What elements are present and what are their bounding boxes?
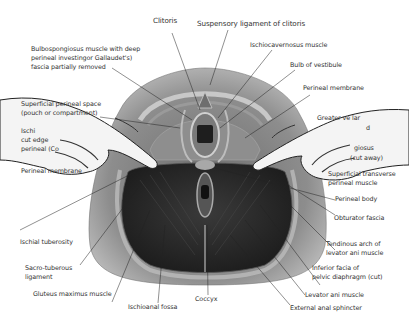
label-bulbospongiosus-line1: Bulbospongiosus muscle with deep (31, 45, 140, 53)
label-gluteus-maximus: Gluteus maximus muscle (33, 290, 112, 298)
label-perineal-membrane-left: Perineal membrane (21, 167, 82, 175)
label-ischio-cut-line1: Ischi (21, 127, 35, 135)
label-superficial-perineal-space-line1: Superficial perineal space (21, 100, 101, 108)
label-tendinous-arch-line1: Tendinous arch of (326, 240, 380, 248)
label-superficial-transverse-line1: Superficial transverse (328, 170, 396, 178)
label-inferior-fascia-line1: Inferior facia of (312, 264, 359, 272)
label-ischioanal-fossa: Ischioanal fossa (128, 303, 177, 311)
label-ischio-cut-line2: cut edge (21, 136, 48, 144)
label-superficial-transverse-line2: perineal muscle (328, 179, 377, 187)
label-sacro-tuberous-line2: ligament (25, 273, 52, 281)
label-bulbospongiosus-cut-line1: giosus (354, 144, 374, 152)
label-coccyx: Coccyx (195, 295, 217, 303)
label-perineal-membrane-right: Perineal membrane (303, 84, 364, 92)
label-ischial-tuberosity: Ischial tuberosity (20, 238, 73, 246)
label-levator-ani: Levator ani muscle (305, 291, 364, 299)
label-ischio-cut-line3: perineal (Co (21, 145, 59, 153)
label-tendinous-arch-line2: levator ani muscle (326, 249, 383, 257)
anatomy-diagram: Clitoris Suspensory ligament of clitoris… (0, 0, 409, 324)
label-obturator-fascia: Obturator fascia (334, 214, 384, 222)
label-bulbospongiosus-line3: fascia partially removed (31, 63, 106, 71)
label-superficial-perineal-space-line2: (pouch or compartment) (21, 109, 97, 117)
label-perineal-body: Perineal body (335, 195, 377, 203)
label-sacro-tuberous-line1: Sacro-tuberous (25, 264, 72, 272)
label-bulbospongiosus-cut-line2: (cut away) (350, 154, 383, 162)
label-greater-vestibular-line2: d (366, 124, 370, 132)
label-suspensory-ligament: Suspensory ligament of clitoris (197, 20, 305, 28)
label-ischiocavernosus: Ischiocavernosus muscle (250, 41, 327, 49)
label-external-anal-sphincter: External anal sphincter (290, 304, 362, 312)
label-bulb-of-vestibule: Bulb of vestibule (290, 61, 342, 69)
label-clitoris: Clitoris (153, 17, 177, 25)
label-bulbospongiosus-line2: perineal investingor Gallaudet's) (31, 54, 132, 62)
label-greater-vestibular-line1: Greater ve lar (317, 114, 360, 122)
label-inferior-fascia-line2: pelvic diaphragm (cut) (312, 273, 382, 281)
